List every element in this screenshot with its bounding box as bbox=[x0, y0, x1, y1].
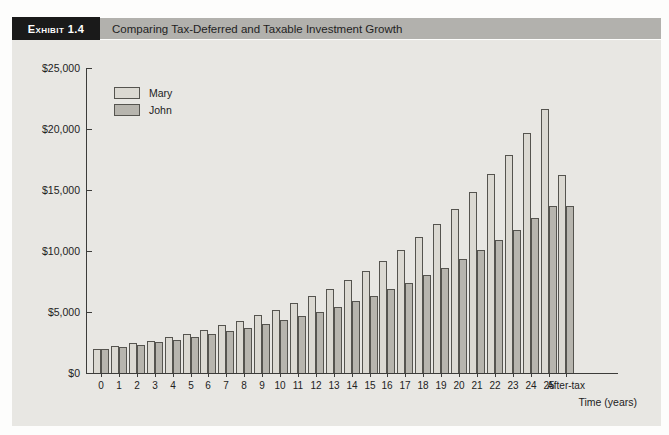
john-bar bbox=[155, 342, 163, 373]
john-bar bbox=[531, 218, 539, 373]
x-tick-label: 21 bbox=[471, 380, 482, 392]
mary-bar bbox=[93, 349, 101, 373]
john-bar bbox=[370, 296, 378, 373]
john-bar bbox=[334, 307, 342, 373]
legend-swatch-mary bbox=[114, 87, 140, 99]
y-tick-label: $0 bbox=[18, 367, 80, 379]
mary-bar bbox=[290, 303, 298, 373]
x-axis-tick bbox=[441, 374, 442, 377]
x-axis-tick bbox=[495, 374, 496, 377]
john-bar bbox=[262, 324, 270, 373]
x-tick-label: 4 bbox=[170, 380, 176, 392]
john-bar bbox=[423, 275, 431, 373]
x-tick-label: 13 bbox=[328, 380, 339, 392]
x-axis-tick bbox=[298, 374, 299, 377]
x-axis-tick bbox=[316, 374, 317, 377]
mary-bar bbox=[165, 337, 173, 373]
y-tick-label: $5,000 bbox=[18, 306, 80, 318]
x-axis-tick bbox=[191, 374, 192, 377]
x-axis-tick bbox=[352, 374, 353, 377]
x-tick-label: 15 bbox=[364, 380, 375, 392]
plot-area: $0$5,000$10,000$15,000$20,000$25,0000123… bbox=[12, 40, 661, 426]
john-bar bbox=[280, 320, 288, 373]
mary-bar bbox=[272, 310, 280, 373]
exhibit-title: Comparing Tax-Deferred and Taxable Inves… bbox=[112, 23, 402, 35]
x-tick-label: 0 bbox=[98, 380, 104, 392]
john-bar bbox=[244, 328, 252, 373]
exhibit-header: Exhibit 1.4 Comparing Tax-Deferred and T… bbox=[12, 17, 661, 40]
mary-bar bbox=[433, 224, 441, 373]
john-bar bbox=[513, 230, 521, 373]
john-bar bbox=[226, 331, 234, 373]
john-bar bbox=[316, 312, 324, 373]
mary-bar bbox=[451, 209, 459, 373]
x-axis-tick bbox=[244, 374, 245, 377]
x-tick-label: 2 bbox=[134, 380, 140, 392]
x-tick-label: 11 bbox=[293, 380, 303, 392]
x-axis-tick bbox=[549, 374, 550, 377]
exhibit-title-bar: Comparing Tax-Deferred and Taxable Inves… bbox=[100, 18, 661, 39]
y-axis-tick bbox=[87, 129, 92, 130]
mary-bar bbox=[183, 334, 191, 373]
mary-bar bbox=[308, 296, 316, 373]
mary-bar bbox=[326, 289, 334, 373]
x-axis-tick bbox=[334, 374, 335, 377]
x-axis-tick bbox=[387, 374, 388, 377]
x-axis-tick bbox=[137, 374, 138, 377]
john-bar bbox=[101, 349, 109, 373]
mary-bar bbox=[558, 175, 566, 373]
x-tick-label: 20 bbox=[453, 380, 464, 392]
exhibit-figure: Exhibit 1.4 Comparing Tax-Deferred and T… bbox=[0, 0, 669, 435]
x-axis-tick bbox=[226, 374, 227, 377]
mary-bar bbox=[200, 330, 208, 373]
john-bar bbox=[298, 316, 306, 373]
x-axis-tick bbox=[101, 374, 102, 377]
john-bar bbox=[405, 283, 413, 373]
x-axis-tick bbox=[173, 374, 174, 377]
mary-bar bbox=[505, 155, 513, 373]
x-axis-title: Time (years) bbox=[578, 396, 637, 408]
y-axis-tick bbox=[87, 68, 92, 69]
mary-bar bbox=[523, 133, 531, 373]
mary-bar bbox=[487, 174, 495, 373]
x-axis-tick bbox=[477, 374, 478, 377]
x-tick-label: 14 bbox=[346, 380, 357, 392]
x-tick-label: 22 bbox=[489, 380, 500, 392]
legend-item-john: John bbox=[114, 101, 172, 118]
x-tick-label: 8 bbox=[241, 380, 247, 392]
x-axis-tick bbox=[531, 374, 532, 377]
mary-bar bbox=[111, 346, 119, 373]
x-tick-label: 5 bbox=[188, 380, 194, 392]
john-bar bbox=[495, 240, 503, 373]
exhibit-tag: Exhibit 1.4 bbox=[12, 17, 100, 40]
x-axis-tick bbox=[566, 374, 567, 377]
x-axis-tick bbox=[513, 374, 514, 377]
john-bar bbox=[191, 337, 199, 373]
x-tick-label: 24 bbox=[525, 380, 536, 392]
mary-bar bbox=[254, 315, 262, 373]
legend-label-john: John bbox=[149, 104, 172, 116]
mary-bar bbox=[147, 341, 155, 373]
mary-bar bbox=[379, 261, 387, 373]
mary-bar bbox=[129, 343, 137, 373]
x-axis-tick bbox=[262, 374, 263, 377]
john-bar bbox=[477, 250, 485, 373]
y-tick-label: $25,000 bbox=[18, 62, 80, 74]
x-tick-label: After-tax bbox=[547, 380, 585, 392]
x-tick-label: 23 bbox=[507, 380, 518, 392]
john-bar bbox=[387, 289, 395, 373]
x-axis-tick bbox=[155, 374, 156, 377]
x-axis-tick bbox=[119, 374, 120, 377]
mary-bar bbox=[415, 237, 423, 373]
x-axis-tick bbox=[208, 374, 209, 377]
y-axis-tick bbox=[87, 312, 92, 313]
x-tick-label: 18 bbox=[417, 380, 428, 392]
chart-panel: $0$5,000$10,000$15,000$20,000$25,0000123… bbox=[12, 40, 661, 426]
x-tick-label: 12 bbox=[310, 380, 321, 392]
mary-bar bbox=[397, 250, 405, 373]
john-bar bbox=[119, 347, 127, 373]
x-tick-label: 16 bbox=[381, 380, 392, 392]
x-tick-label: 10 bbox=[274, 380, 285, 392]
mary-bar bbox=[541, 109, 549, 373]
x-tick-label: 3 bbox=[152, 380, 158, 392]
